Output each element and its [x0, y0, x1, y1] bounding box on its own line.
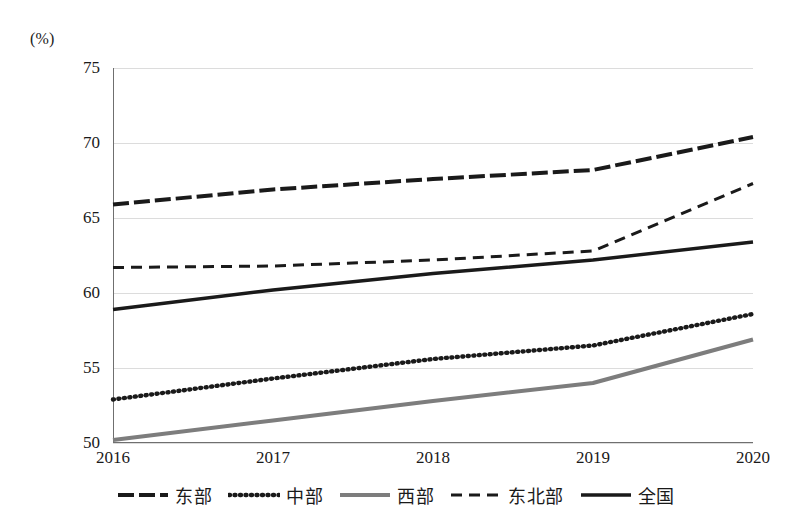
y-axis-tick-labels: 505560657075	[38, 68, 100, 443]
legend-item[interactable]: 全国	[580, 482, 675, 508]
y-tick-label: 65	[40, 208, 100, 228]
y-axis-unit-label: (%)	[30, 30, 55, 48]
plot-area	[113, 68, 753, 443]
series-layer	[113, 68, 753, 443]
x-tick-label: 2018	[416, 448, 450, 468]
legend-swatch-icon	[228, 488, 280, 502]
y-tick-label: 50	[40, 433, 100, 453]
legend-label: 西部	[397, 482, 434, 508]
y-tick-label: 55	[40, 358, 100, 378]
gridline	[113, 443, 753, 444]
legend-label: 全国	[638, 482, 675, 508]
legend-item[interactable]: 东北部	[450, 482, 564, 508]
chart-legend: 东部中部西部东北部全国	[0, 482, 792, 508]
series-line	[113, 137, 753, 205]
x-tick-label: 2017	[256, 448, 290, 468]
legend-swatch-icon	[117, 488, 169, 502]
legend-item[interactable]: 东部	[117, 482, 212, 508]
legend-swatch-icon	[450, 488, 502, 502]
x-tick-label: 2019	[576, 448, 610, 468]
x-tick-label: 2016	[96, 448, 130, 468]
legend-label: 中部	[286, 482, 323, 508]
x-axis-tick-labels: (年份) 20162017201820192020	[113, 448, 753, 478]
line-chart: (%) 505560657075 (年份) 201620172018201920…	[0, 0, 792, 525]
legend-item[interactable]: 西部	[339, 482, 434, 508]
legend-label: 东北部	[508, 482, 564, 508]
y-tick-label: 70	[40, 133, 100, 153]
legend-item[interactable]: 中部	[228, 482, 323, 508]
legend-swatch-icon	[339, 488, 391, 502]
y-tick-label: 75	[40, 58, 100, 78]
x-tick-label: 2020	[736, 448, 770, 468]
series-line	[113, 242, 753, 310]
y-tick-label: 60	[40, 283, 100, 303]
legend-label: 东部	[175, 482, 212, 508]
series-line	[113, 340, 753, 441]
legend-swatch-icon	[580, 488, 632, 502]
series-line	[113, 314, 753, 400]
